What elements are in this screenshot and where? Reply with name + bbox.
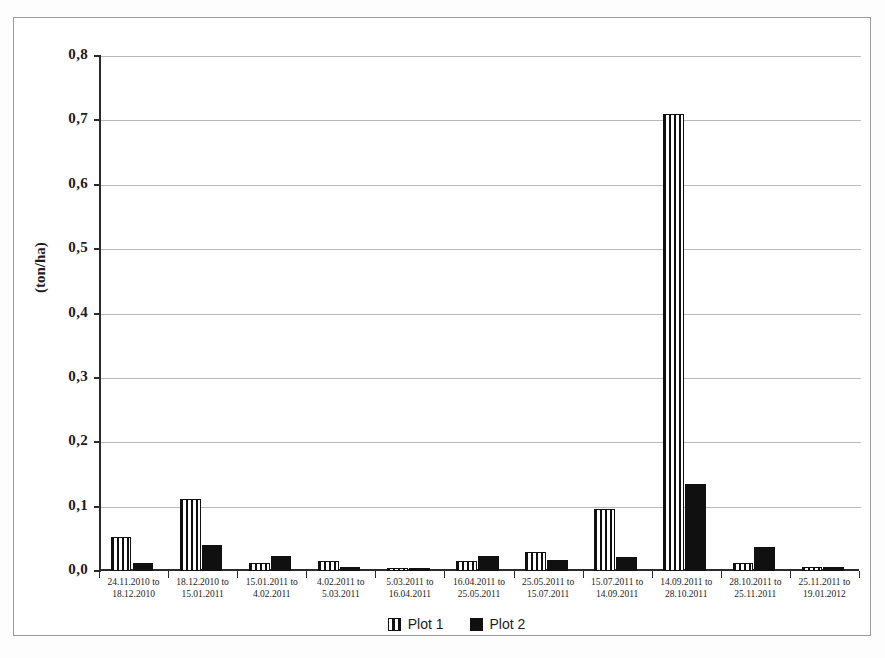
x-tick-label: 15.01.2011 to4.02.2011 <box>232 576 312 600</box>
x-tick-label-line1: 28.10.2011 to <box>729 577 781 587</box>
bar-plot-1 <box>525 552 546 571</box>
legend-label: Plot 2 <box>490 616 526 632</box>
y-tick-label: 0,8 <box>42 46 88 63</box>
y-tick-label: 0,6 <box>42 175 88 192</box>
y-tick-label: 0,0 <box>42 561 88 578</box>
y-tick-label: 0,7 <box>42 110 88 127</box>
x-tick-label-line2: 25.05.2011 <box>439 588 519 600</box>
x-tick-label-line1: 4.02.2011 to <box>317 577 364 587</box>
bar-plot-2 <box>754 547 775 571</box>
x-tick-label-line2: 5.03.2011 <box>301 588 381 600</box>
bar-group <box>583 56 652 571</box>
x-tick-label-line1: 16.04.2011 to <box>453 577 505 587</box>
bar-group <box>514 56 583 571</box>
bar-group <box>721 56 790 571</box>
bar-plot-2 <box>271 556 292 571</box>
x-tick-label-line1: 15.07.2011 to <box>591 577 643 587</box>
bar-plot-2 <box>409 568 430 571</box>
bar-plot-1 <box>249 563 270 571</box>
legend-swatch-plot-2 <box>470 618 483 631</box>
figure-frame: (ton/ha) 0,00,10,20,30,40,50,60,70,8 24.… <box>13 17 871 636</box>
bar-group <box>790 56 859 571</box>
bar-plot-2 <box>340 567 361 571</box>
x-tick-label-line2: 14.09.2011 <box>577 588 657 600</box>
y-tick-label: 0,1 <box>42 497 88 514</box>
bar-plot-1 <box>180 499 201 571</box>
bar-plot-2 <box>685 484 706 571</box>
bar-group <box>99 56 168 571</box>
bar-plot-2 <box>133 563 154 571</box>
bar-group <box>444 56 513 571</box>
x-tick-label-line2: 18.12.2010 <box>94 588 174 600</box>
bar-group <box>375 56 444 571</box>
y-tick-label: 0,3 <box>42 368 88 385</box>
legend-swatch-plot-1 <box>388 618 401 631</box>
x-tick-label: 15.07.2011 to14.09.2011 <box>577 576 657 600</box>
bar-plot-1 <box>733 563 754 571</box>
bar-plot-1 <box>318 561 339 571</box>
legend-item: Plot 1 <box>388 616 444 632</box>
x-tick-label-line1: 5.03.2011 to <box>386 577 433 587</box>
bar-plot-1 <box>387 568 408 571</box>
bar-plot-2 <box>547 560 568 571</box>
legend-item: Plot 2 <box>470 616 526 632</box>
x-tick-label-line1: 25.11.2011 to <box>799 577 851 587</box>
legend-label: Plot 1 <box>408 616 444 632</box>
bar-plot-2 <box>823 567 844 572</box>
x-tick-label: 16.04.2011 to25.05.2011 <box>439 576 519 600</box>
y-tick-label: 0,5 <box>42 239 88 256</box>
x-tick-label: 14.09.2011 to28.10.2011 <box>646 576 726 600</box>
bars-layer <box>99 56 859 571</box>
x-tick-label-line2: 19.01.2012 <box>784 588 864 600</box>
chart-legend: Plot 1Plot 2 <box>14 616 885 632</box>
bar-plot-1 <box>594 509 615 571</box>
y-tick-label: 0,4 <box>42 304 88 321</box>
bar-plot-1 <box>802 567 823 572</box>
bar-plot-1 <box>663 114 684 571</box>
bar-group <box>306 56 375 571</box>
bar-plot-2 <box>616 557 637 571</box>
x-tick-label: 25.11.2011 to19.01.2012 <box>784 576 864 600</box>
x-tick-label: 25.05.2011 to15.07.2011 <box>508 576 588 600</box>
x-tick-label-line2: 15.01.2011 <box>163 588 243 600</box>
chart-page: (ton/ha) 0,00,10,20,30,40,50,60,70,8 24.… <box>0 0 885 658</box>
x-tick-label: 5.03.2011 to16.04.2011 <box>370 576 450 600</box>
x-tick-mark <box>859 571 860 578</box>
x-tick-label-line2: 28.10.2011 <box>646 588 726 600</box>
x-tick-label-line1: 15.01.2011 to <box>246 577 298 587</box>
bar-plot-2 <box>478 556 499 571</box>
x-tick-label: 24.11.2010 to18.12.2010 <box>94 576 174 600</box>
bar-plot-1 <box>456 561 477 571</box>
x-tick-label: 28.10.2011 to25.11.2011 <box>715 576 795 600</box>
bar-plot-1 <box>111 537 132 571</box>
x-tick-label-line2: 4.02.2011 <box>232 588 312 600</box>
bar-group <box>168 56 237 571</box>
bar-group <box>237 56 306 571</box>
x-tick-label: 18.12.2010 to15.01.2011 <box>163 576 243 600</box>
x-tick-label-line1: 14.09.2011 to <box>660 577 712 587</box>
x-tick-label-line2: 15.07.2011 <box>508 588 588 600</box>
x-tick-label-line1: 24.11.2010 to <box>107 577 159 587</box>
y-tick-label: 0,2 <box>42 432 88 449</box>
x-tick-label-line1: 25.05.2011 to <box>522 577 574 587</box>
x-tick-label-line2: 25.11.2011 <box>715 588 795 600</box>
x-tick-label-line2: 16.04.2011 <box>370 588 450 600</box>
x-tick-label: 4.02.2011 to5.03.2011 <box>301 576 381 600</box>
bar-plot-2 <box>202 545 223 571</box>
bar-group <box>652 56 721 571</box>
x-tick-label-line1: 18.12.2010 to <box>176 577 229 587</box>
